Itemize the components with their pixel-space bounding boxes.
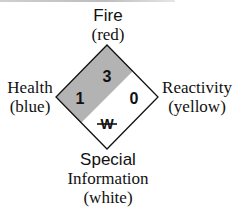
health-value: 1 bbox=[76, 90, 85, 107]
hazard-diamond: 3 1 0 W bbox=[0, 0, 236, 221]
fire-value: 3 bbox=[103, 68, 112, 85]
reactivity-value: 0 bbox=[130, 90, 139, 107]
